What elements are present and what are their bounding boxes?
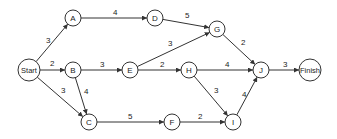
- node-d: D: [147, 10, 163, 26]
- edge-weight-label: 3: [168, 39, 173, 48]
- edge-weight-label: 5: [185, 11, 190, 20]
- node-label: D: [152, 14, 158, 23]
- node-label: Finish: [300, 66, 320, 75]
- edge-arrow: [137, 32, 210, 66]
- edge-h-i: 3: [194, 76, 228, 116]
- edge-weight-label: 3: [61, 86, 66, 95]
- edge-start-b: 2: [40, 59, 65, 70]
- node-b: B: [65, 62, 81, 78]
- edge-start-c: 3: [37, 77, 83, 117]
- node-f: F: [164, 114, 180, 130]
- edge-a-d: 4: [81, 8, 147, 18]
- edge-weight-label: 4: [225, 60, 230, 69]
- edge-weight-label: 3: [214, 86, 219, 95]
- edge-weight-label: 4: [84, 87, 89, 96]
- edge-j-finish: 3: [269, 60, 299, 70]
- node-i: I: [225, 114, 241, 130]
- node-label: H: [186, 66, 192, 75]
- edge-weight-label: 2: [50, 59, 55, 68]
- node-finish: Finish: [299, 59, 321, 81]
- edge-weight-label: 2: [241, 38, 246, 47]
- node-label: Start: [21, 66, 38, 75]
- edge-b-e: 3: [81, 60, 122, 70]
- node-e: E: [122, 62, 138, 78]
- node-label: I: [232, 118, 234, 127]
- node-label: B: [70, 66, 75, 75]
- node-c: C: [81, 114, 97, 130]
- edge-weight-label: 3: [100, 60, 105, 69]
- node-start: Start: [18, 59, 40, 81]
- node-label: C: [86, 118, 92, 127]
- edge-d-g: 5: [163, 11, 209, 28]
- edge-arrow: [163, 19, 209, 27]
- edge-arrow: [75, 78, 86, 115]
- edge-e-h: 2: [138, 60, 181, 70]
- edge-f-i: 2: [180, 112, 225, 122]
- edge-weight-label: 3: [46, 36, 51, 45]
- edge-weight-label: 4: [242, 90, 247, 99]
- node-a: A: [65, 10, 81, 26]
- edge-arrow: [36, 24, 68, 61]
- edge-i-j: 4: [237, 77, 257, 115]
- diagram-canvas: 3234345532224343 StartABCDEFGHIJFinish: [0, 0, 337, 139]
- node-g: G: [209, 21, 225, 37]
- edge-arrow: [237, 77, 257, 115]
- edge-h-j: 4: [197, 60, 253, 70]
- node-label: G: [214, 25, 220, 34]
- network-diagram: 3234345532224343 StartABCDEFGHIJFinish: [0, 0, 337, 139]
- edge-arrow: [194, 76, 228, 116]
- edge-e-g: 3: [137, 32, 210, 66]
- node-label: A: [70, 14, 76, 23]
- edge-weight-label: 3: [283, 60, 288, 69]
- node-h: H: [181, 62, 197, 78]
- node-j: J: [253, 62, 269, 78]
- edge-c-f: 5: [97, 112, 164, 122]
- edge-weight-label: 2: [198, 112, 203, 121]
- edge-arrow: [37, 77, 83, 117]
- edge-weight-label: 2: [160, 60, 165, 69]
- edge-b-c: 4: [75, 78, 89, 115]
- node-label: F: [170, 118, 175, 127]
- node-label: J: [259, 66, 263, 75]
- edge-weight-label: 5: [128, 112, 133, 121]
- edge-weight-label: 4: [113, 8, 118, 17]
- edge-start-a: 3: [36, 24, 68, 61]
- node-label: E: [127, 66, 132, 75]
